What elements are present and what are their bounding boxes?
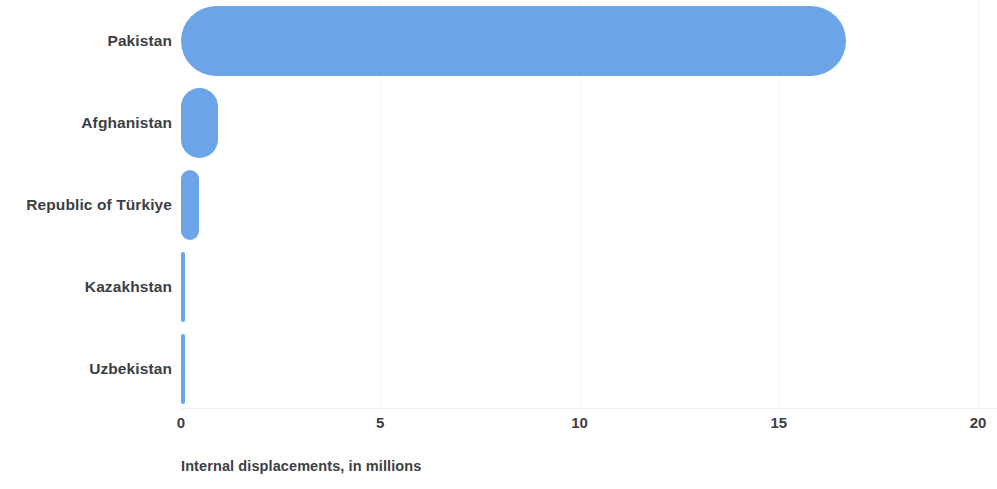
x-tick-label: 15 (770, 414, 787, 431)
bar-chart: PakistanAfghanistanRepublic of TürkiyeKa… (0, 0, 997, 489)
x-axis-label: Internal displacements, in millions (181, 458, 421, 474)
x-axis-ticks: 05101520 (0, 0, 997, 489)
x-tick-label: 20 (970, 414, 987, 431)
x-tick-label: 10 (571, 414, 588, 431)
x-tick-label: 0 (177, 414, 185, 431)
x-tick-label: 5 (376, 414, 384, 431)
